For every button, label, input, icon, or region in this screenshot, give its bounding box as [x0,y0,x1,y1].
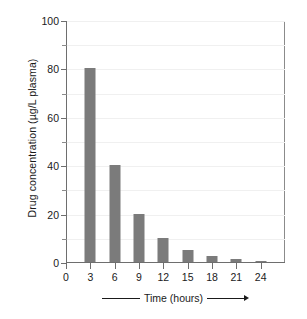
y-tick-mark [61,215,67,216]
y-tick-mark [61,118,67,119]
gridline [67,45,285,46]
caption-leading-rule [102,298,140,299]
gridline [67,142,285,143]
gridline [67,69,285,70]
y-tick-label: 80 [47,63,59,75]
x-tick-mark [139,263,140,269]
y-tick-label: 100 [41,15,59,27]
bar [207,256,218,262]
gridline [67,239,285,240]
gridline [67,21,285,22]
x-tick-label: 3 [87,271,93,283]
y-tick-minor [62,190,67,191]
arrow-right-icon [244,295,249,301]
gridline [67,166,285,167]
caption-trailing-arrow [207,295,249,301]
y-tick-label: 40 [47,160,59,172]
x-tick-label: 21 [230,271,242,283]
y-tick-minor [62,239,67,240]
drug-concentration-bar-chart: Drug concentration (µg/L plasma) 0204060… [0,0,307,319]
y-tick-minor [62,94,67,95]
y-tick-label: 20 [47,209,59,221]
x-tick-mark [163,263,164,269]
x-axis-caption: Time (hours) [66,292,285,304]
x-tick-mark [90,263,91,269]
x-tick-mark [236,263,237,269]
x-tick-mark [66,263,67,269]
bar [109,165,120,262]
y-tick-mark [61,21,67,22]
x-tick-label: 0 [63,271,69,283]
plot-area: 020406080100 03691215182124 [66,21,285,263]
bar [231,259,242,262]
y-tick-minor [62,45,67,46]
gridline [67,94,285,95]
x-tick-mark [115,263,116,269]
bar [255,261,266,263]
x-tick-label: 12 [157,271,169,283]
gridline [67,215,285,216]
y-tick-mark [61,166,67,167]
bar [182,250,193,262]
gridline [67,118,285,119]
bar [85,68,96,262]
x-tick-mark [261,263,262,269]
y-tick-label: 0 [53,257,59,269]
bar [134,214,145,262]
y-tick-mark [61,69,67,70]
x-axis-line [66,262,285,263]
x-tick-mark [188,263,189,269]
y-tick-minor [62,142,67,143]
x-tick-label: 24 [255,271,267,283]
x-tick-label: 6 [112,271,118,283]
x-tick-label: 18 [206,271,218,283]
x-tick-label: 15 [182,271,194,283]
gridline [67,190,285,191]
y-tick-label: 60 [47,112,59,124]
x-tick-mark [212,263,213,269]
bar [158,238,169,262]
y-axis-title: Drug concentration (µg/L plasma) [26,33,38,243]
caption-trailing-rule [207,298,245,299]
x-tick-label: 9 [136,271,142,283]
x-axis-title: Time (hours) [144,292,203,304]
